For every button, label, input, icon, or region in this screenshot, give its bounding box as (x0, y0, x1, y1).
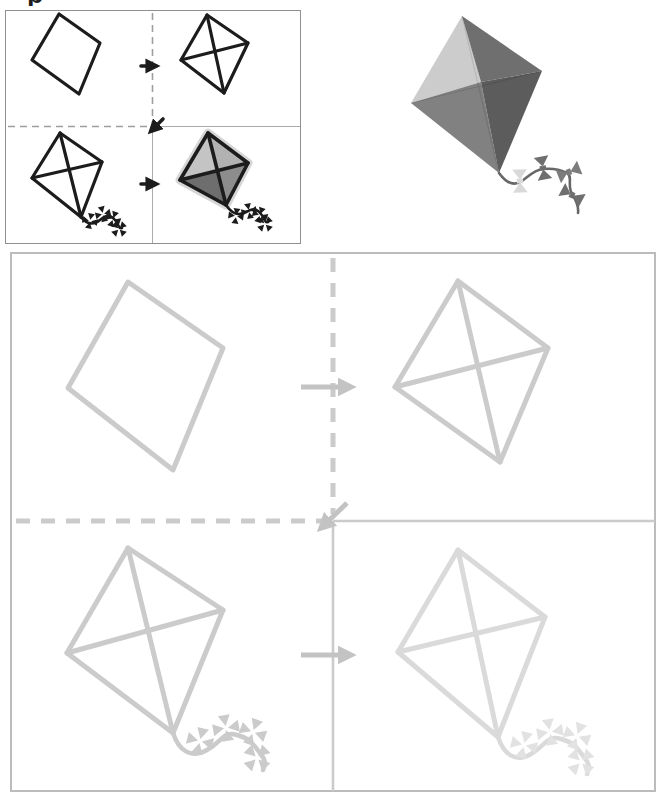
tail-bow-icon (558, 183, 585, 207)
page-title-fragment: p (27, 0, 73, 6)
example-panel (5, 10, 301, 244)
worksheet-page: { "page": { "title_fragment": "p", "back… (0, 0, 663, 792)
tail-bow-icon (512, 169, 527, 193)
page-title-fragment-text: p (27, 0, 44, 6)
reference-kite-illustration (395, 0, 605, 228)
practice-panel (10, 252, 656, 792)
